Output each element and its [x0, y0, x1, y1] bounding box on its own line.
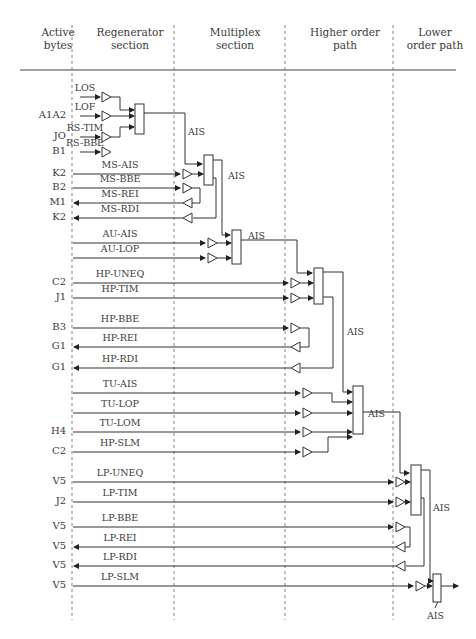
alarm-propagation-diagram: [0, 0, 476, 639]
column-dividers: [72, 25, 393, 620]
detector-icon: [396, 497, 405, 507]
or-gate-block: [411, 465, 421, 515]
or-gate-block: [135, 104, 144, 134]
detector-icon: [208, 253, 217, 263]
detector-icon: [416, 581, 425, 591]
or-gate-block: [232, 230, 241, 264]
detector-icon: [291, 342, 300, 352]
detector-icon: [208, 238, 217, 248]
or-gate-block: [353, 386, 363, 434]
detector-icon: [303, 408, 312, 418]
detector-icon: [303, 427, 312, 437]
detector-icon: [291, 278, 300, 288]
detector-icon: [183, 169, 192, 179]
detector-icon: [102, 92, 111, 102]
detector-icon: [303, 447, 312, 457]
detector-icon: [291, 363, 300, 373]
detector-icon: [303, 388, 312, 398]
detector-icon: [396, 542, 405, 552]
or-gate-block: [204, 155, 213, 185]
detector-icon: [291, 293, 300, 303]
detector-icon: [102, 132, 111, 142]
or-gate-block: [314, 268, 323, 304]
detector-icon: [183, 213, 192, 223]
detector-icon: [396, 561, 405, 571]
detector-icon: [396, 522, 405, 532]
detector-icon: [102, 111, 111, 121]
or-gate-block: [433, 574, 441, 602]
detector-icon: [396, 477, 405, 487]
detector-icon: [102, 147, 111, 157]
detector-icon: [183, 183, 192, 193]
detector-icon: [291, 323, 300, 333]
detector-icon: [183, 198, 192, 208]
